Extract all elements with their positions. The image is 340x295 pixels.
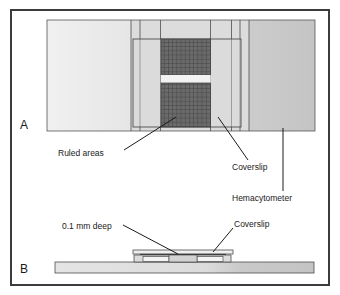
leader-coverslip-side bbox=[213, 228, 233, 252]
slide-left-region bbox=[47, 20, 131, 131]
label-hemacytometer: Hemacytometer bbox=[232, 193, 292, 203]
ruled-area-lower-micro bbox=[161, 83, 211, 127]
slide-right-region bbox=[249, 20, 315, 131]
side-center-ridge bbox=[169, 255, 197, 262]
side-moat-left bbox=[143, 257, 169, 262]
label-chamber-depth: 0.1 mm deep bbox=[62, 221, 112, 231]
side-base-slide bbox=[55, 262, 314, 273]
chamber-gap bbox=[161, 75, 211, 83]
panel-letter-b: B bbox=[20, 262, 28, 276]
label-coverslip-side: Coverslip bbox=[234, 219, 269, 229]
ruled-area-upper-micro bbox=[161, 39, 211, 75]
label-coverslip-top: Coverslip bbox=[232, 162, 267, 172]
panel-a-top-view bbox=[47, 20, 315, 191]
panel-letter-a: A bbox=[20, 118, 28, 132]
side-coverslip bbox=[133, 250, 233, 254]
side-moat-right bbox=[197, 257, 223, 262]
figure-root: A B Ruled areas Coverslip Hemacytometer … bbox=[0, 0, 340, 295]
label-ruled-areas: Ruled areas bbox=[58, 148, 104, 158]
hemacytometer-diagram bbox=[0, 0, 340, 295]
panel-b-side-view bbox=[55, 225, 314, 273]
